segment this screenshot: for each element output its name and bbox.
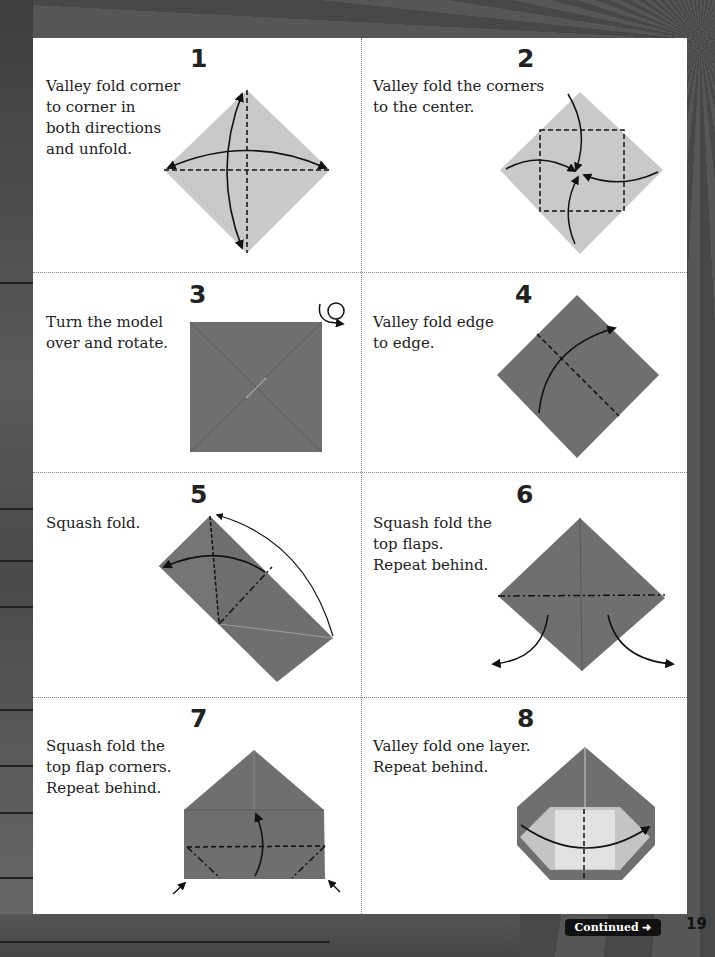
continued-button[interactable]: Continued ➜: [565, 919, 661, 936]
step-number: 2: [517, 44, 533, 73]
step-number: 6: [516, 480, 532, 509]
wood-plank-line: [0, 877, 33, 879]
step-1-diagram: [160, 88, 340, 258]
step-4-diagram: [497, 293, 662, 463]
step-7-diagram: [170, 748, 360, 898]
push-arrow: [329, 881, 340, 892]
page-number: 19: [686, 915, 707, 933]
wood-plank-line: [0, 606, 33, 608]
wood-plank-line: [0, 560, 33, 562]
wood-plank-line: [0, 812, 33, 814]
paper-flap: [159, 516, 219, 624]
arrow-right-icon: ➜: [642, 921, 651, 934]
push-arrow: [173, 883, 185, 894]
continued-label: Continued: [575, 921, 639, 934]
step-number: 3: [189, 280, 205, 309]
column-divider: [361, 38, 362, 914]
step-3-diagram: [190, 322, 325, 454]
step-number: 5: [190, 480, 206, 509]
paper-square: [500, 92, 663, 254]
wood-plank-line: [0, 765, 33, 767]
row-divider: [33, 472, 687, 473]
step-6-diagram: [490, 515, 680, 675]
step-instruction: Valley fold one layer. Repeat behind.: [373, 736, 531, 778]
step-instruction: Turn the model over and rotate.: [46, 312, 168, 354]
step-8-diagram: [515, 745, 665, 885]
wood-background-bottom: [0, 914, 520, 957]
step-number: 1: [190, 44, 206, 73]
step-instruction: Squash fold.: [46, 513, 140, 534]
row-divider: [33, 697, 687, 698]
wood-plank-line: [0, 709, 33, 711]
step-number: 8: [517, 704, 533, 733]
paper-square: [497, 295, 659, 458]
step-5-diagram: [155, 510, 340, 685]
step-2-diagram: [500, 90, 670, 260]
row-divider: [33, 272, 687, 273]
wood-plank-line: [0, 941, 330, 943]
wood-plank-line: [0, 282, 33, 284]
inner-square: [555, 810, 615, 869]
step-instruction: Valley fold edge to edge.: [373, 312, 494, 354]
wood-plank-line: [0, 508, 33, 510]
step-instruction: Squash fold the top flaps. Repeat behind…: [373, 513, 492, 576]
step-number: 7: [190, 704, 206, 733]
step-instruction: Squash fold the top flap corners. Repeat…: [46, 736, 172, 799]
turn-over-rotate-icon: [315, 300, 351, 330]
